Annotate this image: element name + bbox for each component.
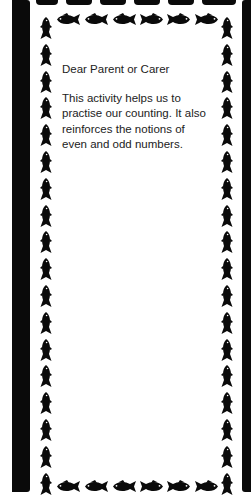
fish-icon <box>221 43 233 67</box>
fish-icon <box>221 418 233 442</box>
fish-icon <box>221 204 233 228</box>
border-blob <box>134 0 160 5</box>
fish-icon <box>221 284 233 308</box>
fish-icon <box>55 479 81 492</box>
fish-icon <box>55 12 81 25</box>
letter-body: This activity helps us to practise our c… <box>62 91 212 153</box>
fish-icon <box>221 311 233 335</box>
fish-icon <box>40 311 52 335</box>
fish-icon <box>83 479 109 492</box>
top-border-strip <box>30 0 242 6</box>
fish-icon <box>40 43 52 67</box>
left-border-bar <box>12 0 30 492</box>
border-blob <box>36 0 58 5</box>
fish-icon <box>221 230 233 254</box>
fish-icon <box>40 445 52 469</box>
fish-icon <box>40 391 52 415</box>
fish-icon <box>221 70 233 94</box>
fish-icon <box>40 96 52 120</box>
fish-icon <box>111 12 137 25</box>
letter-content: Dear Parent or Carer This activity helps… <box>62 62 212 153</box>
fish-icon <box>40 150 52 174</box>
fish-icon <box>83 12 109 25</box>
fish-icon <box>40 418 52 442</box>
fish-icon <box>40 284 52 308</box>
fish-icon <box>221 364 233 388</box>
fish-icon <box>221 257 233 281</box>
fish-icon <box>221 338 233 362</box>
fish-icon <box>221 16 233 40</box>
fish-icon <box>40 230 52 254</box>
fish-icon <box>221 177 233 201</box>
fish-icon <box>40 204 52 228</box>
letter-greeting: Dear Parent or Carer <box>62 62 212 78</box>
fish-icon <box>40 16 52 40</box>
fish-icon <box>166 12 192 25</box>
fish-icon <box>111 479 137 492</box>
fish-icon <box>221 391 233 415</box>
fish-icon <box>221 445 233 469</box>
fish-icon <box>40 338 52 362</box>
fish-icon <box>221 123 233 147</box>
fish-icon <box>40 472 52 496</box>
fish-icon <box>221 96 233 120</box>
fish-icon <box>40 364 52 388</box>
fish-icon <box>166 479 192 492</box>
fish-icon <box>40 177 52 201</box>
fish-icon <box>139 479 165 492</box>
border-blob <box>66 0 92 5</box>
fish-icon <box>221 150 233 174</box>
fish-icon <box>194 479 220 492</box>
border-blob <box>202 0 236 5</box>
fish-icon <box>139 12 165 25</box>
border-blob <box>168 0 194 5</box>
border-blob <box>100 0 126 5</box>
fish-icon <box>194 12 220 25</box>
fish-icon <box>40 257 52 281</box>
right-border-bar <box>242 0 251 492</box>
fish-icon <box>40 70 52 94</box>
fish-icon <box>221 472 233 496</box>
fish-icon <box>40 123 52 147</box>
